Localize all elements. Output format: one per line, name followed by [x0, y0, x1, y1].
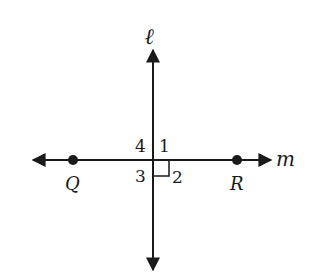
point-q-label: Q: [65, 173, 80, 194]
right-angle-marker: [153, 160, 169, 176]
perpendicular-lines-diagram: ℓ m Q R 1 2 3 4: [0, 0, 324, 280]
angle-2-label: 2: [172, 167, 183, 187]
line-l-label: ℓ: [145, 23, 154, 49]
angle-4-label: 4: [135, 136, 146, 156]
angle-3-label: 3: [135, 166, 146, 186]
line-m-label: m: [276, 147, 295, 171]
point-q: [68, 155, 78, 165]
angle-1-label: 1: [159, 136, 170, 156]
point-r: [232, 155, 242, 165]
point-r-label: R: [229, 173, 244, 194]
